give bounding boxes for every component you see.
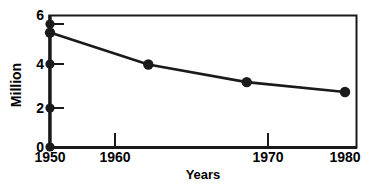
line-chart-figure: Million 6 4 2 0 1950 1960 1970 1980 Year… [0, 0, 370, 191]
x-tick-label-1960: 1960 [92, 150, 138, 164]
x-tick-label-1970: 1970 [245, 150, 291, 164]
x-tick-label-1950: 1950 [27, 150, 73, 164]
x-axis-title: Years [49, 168, 357, 181]
caption-sliver [3, 185, 253, 191]
x-tick-label-1980: 1980 [322, 150, 368, 164]
x-tick-label-group: 1950 1960 1970 1980 [0, 0, 370, 191]
